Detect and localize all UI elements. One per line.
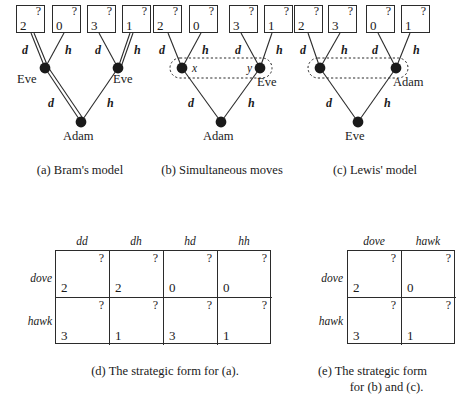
payoff-box: ? 2 bbox=[153, 5, 182, 33]
payoff-value: 0 bbox=[56, 19, 63, 33]
cell-question: ? bbox=[446, 252, 451, 265]
table-cell: ? 3 bbox=[56, 298, 110, 345]
payoff-value: 3 bbox=[332, 19, 339, 33]
node-label-eve-left: Eve bbox=[17, 73, 36, 86]
cell-question: ? bbox=[153, 252, 158, 265]
root-edge-label-h: h bbox=[384, 97, 391, 109]
edge-label-d: d bbox=[372, 44, 378, 56]
game-tree-simultaneous-moves: ? 2 ? 0 ? 3 ? 1 d h d h x y Eve d h Adam bbox=[150, 0, 300, 150]
payoff-value: 0 bbox=[370, 19, 377, 33]
payoff-value: 1 bbox=[268, 19, 275, 33]
row-header-dove: dove bbox=[5, 272, 52, 284]
edge-label-d: d bbox=[159, 44, 165, 56]
caption-strategic-form-a: (d) The strategic form for (a). bbox=[55, 363, 275, 379]
information-set-label-y: y bbox=[247, 62, 252, 74]
table-cell: ? 0 bbox=[402, 251, 456, 298]
payoff-question: ? bbox=[209, 5, 214, 18]
row-header-hawk: hawk bbox=[5, 315, 52, 327]
edge-label-h: h bbox=[202, 44, 209, 56]
edge-label-h: h bbox=[134, 44, 141, 56]
payoff-value: 3 bbox=[91, 19, 98, 33]
column-header-hh: hh bbox=[217, 235, 271, 247]
root-edge-label-h: h bbox=[248, 97, 255, 109]
payoff-question: ? bbox=[348, 5, 353, 18]
strategic-form-bc: dove hawk dove hawk ? 2 ? 0 ? 3 ? 1 bbox=[305, 232, 450, 352]
cell-question: ? bbox=[207, 299, 212, 312]
node-label-eve-right: Eve bbox=[113, 73, 132, 86]
cell-value: 0 bbox=[407, 281, 414, 295]
cell-question: ? bbox=[446, 299, 451, 312]
caption-strategic-form-bc: (e) The strategic form for (b) and (c). bbox=[300, 363, 445, 395]
payoff-question: ? bbox=[284, 5, 289, 18]
payoff-box: ? 3 bbox=[328, 5, 357, 33]
game-tree-lewis-model: ? 2 ? 3 ? 0 ? 1 d h d h Adam d h Eve bbox=[300, 0, 450, 150]
node-label-eve-root: Eve bbox=[345, 130, 364, 143]
cell-value: 3 bbox=[353, 329, 360, 343]
cell-value: 1 bbox=[407, 329, 414, 343]
payoff-box: ? 2 bbox=[16, 5, 45, 33]
payoff-box: ? 0 bbox=[52, 5, 81, 33]
payoff-question: ? bbox=[142, 5, 147, 18]
cell-value: 0 bbox=[169, 281, 176, 295]
game-tree-brams-model: ? 2 ? 0 ? 3 ? 1 d h d h Eve Eve d h Adam bbox=[0, 0, 150, 150]
edge-label-h: h bbox=[413, 44, 420, 56]
table-cell: ? 2 bbox=[110, 251, 164, 298]
caption-simultaneous-moves: (b) Simultaneous moves bbox=[142, 163, 302, 178]
cell-question: ? bbox=[262, 252, 267, 265]
root-edge-label-h: h bbox=[107, 97, 114, 109]
column-header-hd: hd bbox=[163, 235, 217, 247]
payoff-box: ? 3 bbox=[229, 5, 258, 33]
payoff-grid-bc: ? 2 ? 0 ? 3 ? 1 bbox=[347, 250, 455, 344]
payoff-box: ? 2 bbox=[294, 5, 323, 33]
edge-label-d: d bbox=[22, 44, 28, 56]
table-cell: ? 0 bbox=[218, 251, 272, 298]
column-header-dd: dd bbox=[55, 235, 109, 247]
table-cell: ? 1 bbox=[218, 298, 272, 345]
edge-label-d: d bbox=[235, 44, 241, 56]
cell-question: ? bbox=[262, 299, 267, 312]
table-cell: ? 2 bbox=[56, 251, 110, 298]
row-header-dove: dove bbox=[297, 272, 343, 284]
payoff-question: ? bbox=[314, 5, 319, 18]
payoff-value: 2 bbox=[157, 19, 164, 33]
cell-question: ? bbox=[391, 299, 396, 312]
payoff-value: 0 bbox=[193, 19, 200, 33]
root-edge-label-d: d bbox=[48, 97, 54, 109]
payoff-value: 1 bbox=[405, 19, 412, 33]
information-set-label-x: x bbox=[192, 62, 197, 74]
cell-value: 2 bbox=[115, 281, 122, 295]
payoff-question: ? bbox=[36, 5, 41, 18]
payoff-box: ? 3 bbox=[87, 5, 116, 33]
payoff-question: ? bbox=[421, 5, 426, 18]
cell-value: 1 bbox=[223, 329, 230, 343]
payoff-question: ? bbox=[107, 5, 112, 18]
payoff-grid-a: ? 2 ? 2 ? 0 ? 0 ? 3 ? 1 bbox=[55, 250, 271, 344]
node-label-eve: Eve bbox=[257, 76, 276, 89]
cell-question: ? bbox=[391, 252, 396, 265]
payoff-value: 1 bbox=[126, 19, 133, 33]
cell-value: 3 bbox=[61, 329, 68, 343]
caption-line-2: for (b) and (c). bbox=[300, 379, 445, 395]
strategic-form-a: dd dh hd hh dove hawk ? 2 ? 2 ? 0 ? 0 bbox=[0, 232, 280, 352]
payoff-value: 2 bbox=[20, 19, 27, 33]
caption-brams-model: (a) Bram's model bbox=[15, 163, 145, 178]
payoff-question: ? bbox=[173, 5, 178, 18]
row-header-hawk: hawk bbox=[297, 315, 343, 327]
column-header-hawk: hawk bbox=[401, 235, 455, 247]
table-cell: ? 0 bbox=[164, 251, 218, 298]
column-header-dh: dh bbox=[109, 235, 163, 247]
cell-question: ? bbox=[99, 252, 104, 265]
edge-label-h: h bbox=[341, 44, 348, 56]
payoff-question: ? bbox=[249, 5, 254, 18]
payoff-question: ? bbox=[72, 5, 77, 18]
edge-label-h: h bbox=[65, 44, 72, 56]
cell-value: 1 bbox=[115, 329, 122, 343]
node-label-adam: Adam bbox=[393, 76, 424, 89]
root-edge-label-d: d bbox=[188, 97, 194, 109]
table-cell: ? 2 bbox=[348, 251, 402, 298]
payoff-box: ? 0 bbox=[189, 5, 218, 33]
cell-question: ? bbox=[99, 299, 104, 312]
edge-label-h: h bbox=[276, 44, 283, 56]
cell-value: 2 bbox=[353, 281, 360, 295]
